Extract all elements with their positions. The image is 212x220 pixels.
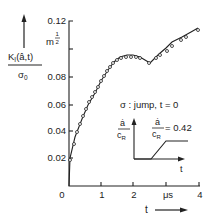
- svg-text:= 0.42: = 0.42: [165, 122, 192, 133]
- chart: KI(â,t) σ0 m 1 2 0.12 0.08 0.06 0.04 0.0…: [0, 0, 212, 220]
- svg-text:t: t: [180, 164, 183, 174]
- svg-text:μs: μs: [163, 189, 173, 200]
- x-axis-label: t: [145, 204, 188, 215]
- svg-text:ȧ: ȧ: [155, 117, 160, 127]
- svg-text:0.06: 0.06: [48, 99, 67, 110]
- arrow-right-icon: [178, 157, 185, 162]
- svg-text:t: t: [145, 204, 148, 215]
- svg-text:1: 1: [56, 31, 60, 37]
- annotation-jump: σ : jump, t = 0: [120, 99, 178, 110]
- svg-text:0.08: 0.08: [48, 71, 67, 82]
- y-axis-label: KI(â,t) σ0: [8, 14, 42, 81]
- svg-text:0: 0: [59, 189, 64, 200]
- svg-text:KI(â,t): KI(â,t): [8, 51, 33, 63]
- arrow-up-icon: [22, 14, 27, 22]
- svg-text:cR: cR: [152, 129, 162, 140]
- inset-chart: ȧ cR ȧ cR = 0.42 t: [117, 117, 192, 174]
- svg-text:σ0: σ0: [18, 69, 28, 81]
- svg-text:0.12: 0.12: [48, 15, 67, 26]
- svg-text:0.04: 0.04: [48, 125, 67, 136]
- svg-text:1: 1: [99, 189, 104, 200]
- x-tick-labels: 0 1 2 μs 4: [59, 189, 202, 200]
- svg-text:2: 2: [56, 39, 60, 45]
- svg-text:4: 4: [197, 189, 202, 200]
- svg-text:ȧ: ȧ: [120, 118, 125, 128]
- svg-text:cR: cR: [117, 130, 127, 141]
- svg-text:0.02: 0.02: [48, 152, 67, 163]
- arrow-right-icon: [180, 208, 188, 213]
- arrow-up-icon: [132, 118, 137, 125]
- y-unit: m 1 2: [46, 31, 60, 47]
- svg-text:m: m: [46, 36, 54, 47]
- svg-text:2: 2: [131, 189, 136, 200]
